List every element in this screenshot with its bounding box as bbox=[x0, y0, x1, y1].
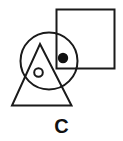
small-circle-shape bbox=[34, 68, 43, 77]
figure-label: C bbox=[0, 113, 123, 139]
figure-panel: C bbox=[0, 0, 123, 141]
filled-dot-shape bbox=[58, 53, 68, 63]
